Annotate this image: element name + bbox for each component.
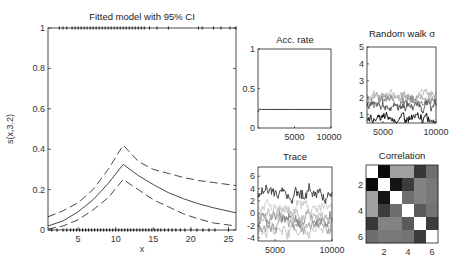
heatmap-cell — [378, 165, 390, 178]
correlation-panel: Correlation 246246 — [358, 150, 438, 257]
fitted-model-title: Fitted model with 95% CI — [89, 11, 195, 22]
heatmap-cell — [414, 165, 426, 178]
heatmap-cell — [402, 204, 414, 217]
y-tick-label: 0.2 — [32, 185, 45, 195]
heatmap-cell — [378, 204, 390, 217]
heatmap-cell — [414, 191, 426, 204]
y-tick-label: 3 — [359, 76, 364, 86]
heatmap-cell — [390, 165, 402, 178]
heatmap-cell — [390, 204, 402, 217]
acc-rate-axes — [258, 49, 331, 128]
correlation-heatmap — [366, 165, 438, 243]
y-tick-label: 0 — [40, 225, 45, 235]
acc-rate-ticks: 50001000000.51 — [242, 44, 341, 142]
y-tick-label: 6 — [358, 232, 363, 242]
heatmap-cell — [414, 217, 426, 230]
heatmap-cell — [366, 178, 378, 191]
heatmap-cell — [390, 230, 402, 243]
y-tick-label: 0 — [250, 123, 255, 133]
acc-rate-panel: Acc. rate 50001000000.51 — [242, 34, 341, 142]
heatmap-cell — [426, 191, 438, 204]
x-tick-label: 5000 — [373, 127, 393, 137]
y-tick-label: -2 — [247, 221, 255, 231]
x-tick-label: 5000 — [284, 132, 304, 142]
random-walk-sigma-axes — [367, 47, 436, 123]
x-tick-label: 5000 — [265, 245, 285, 255]
heatmap-cell — [426, 204, 438, 217]
trace-lines — [258, 183, 332, 239]
random-walk-sigma-title: Random walk σ — [369, 28, 435, 39]
heatmap-cell — [366, 165, 378, 178]
heatmap-cell — [390, 217, 402, 230]
heatmap-cell — [402, 217, 414, 230]
heatmap-cell — [414, 204, 426, 217]
y-tick-label: 0 — [250, 208, 255, 218]
heatmap-cell — [366, 230, 378, 243]
heatmap-cell — [414, 178, 426, 191]
chain-line — [258, 183, 332, 203]
y-tick-label: 2 — [358, 180, 363, 190]
heatmap-cell — [378, 191, 390, 204]
heatmap-cell — [402, 165, 414, 178]
y-tick-label: 0.6 — [32, 104, 45, 114]
y-tick-label: -4 — [247, 233, 255, 243]
chain-line — [367, 112, 436, 123]
x-tick-label: 6 — [429, 247, 434, 257]
acc-rate-line — [258, 109, 331, 112]
heatmap-cell — [378, 217, 390, 230]
trace-panel: Trace 500010000-4-20246 — [247, 151, 345, 255]
heatmap-cell — [402, 191, 414, 204]
y-tick-label: 0.4 — [32, 144, 45, 154]
y-tick-label: 0.8 — [32, 63, 45, 73]
y-tick-label: 2 — [359, 93, 364, 103]
fitted-model-panel: Fitted model with 95% CI s(x,3.2) x 5101… — [5, 11, 236, 254]
fitted-model-lines — [48, 145, 236, 229]
x-tick-label: 20 — [186, 234, 196, 244]
fitted-model-xlabel: x — [140, 244, 145, 254]
y-tick-label: 4 — [359, 59, 364, 69]
heatmap-cell — [426, 217, 438, 230]
heatmap-cell — [366, 217, 378, 230]
y-tick-label: 1 — [250, 44, 255, 54]
heatmap-cell — [390, 191, 402, 204]
y-tick-label: 5 — [359, 42, 364, 52]
x-tick-label: 5 — [76, 234, 81, 244]
heatmap-cell — [426, 178, 438, 191]
heatmap-cell — [378, 230, 390, 243]
heatmap-cell — [402, 178, 414, 191]
random-walk-sigma-lines — [367, 89, 436, 123]
y-tick-label: 4 — [358, 206, 363, 216]
y-tick-label: 2 — [250, 196, 255, 206]
x-tick-label: 2 — [381, 247, 386, 257]
y-tick-label: 1 — [359, 110, 364, 120]
figure: Fitted model with 95% CI s(x,3.2) x 5101… — [0, 0, 465, 270]
y-tick-label: 1 — [40, 23, 45, 33]
trace-title: Trace — [283, 151, 307, 162]
acc-rate-title: Acc. rate — [276, 34, 314, 45]
y-tick-label: 6 — [250, 171, 255, 181]
x-tick-label: 15 — [148, 234, 158, 244]
acc-rate-line — [258, 109, 331, 112]
x-tick-label: 10000 — [319, 245, 344, 255]
heatmap-cell — [426, 230, 438, 243]
correlation-title: Correlation — [379, 150, 425, 161]
heatmap-cell — [378, 178, 390, 191]
y-tick-label: 0.5 — [242, 84, 255, 94]
heatmap-cell — [414, 230, 426, 243]
fit-line — [48, 164, 236, 226]
heatmap-cell — [426, 165, 438, 178]
x-tick-label: 25 — [223, 234, 233, 244]
heatmap-cell — [402, 230, 414, 243]
y-tick-label: 4 — [250, 184, 255, 194]
random-walk-sigma-panel: Random walk σ 50001000012345 — [359, 28, 449, 137]
heatmap-cell — [366, 191, 378, 204]
x-tick-label: 10000 — [316, 132, 341, 142]
heatmap-cell — [366, 204, 378, 217]
x-tick-label: 10 — [111, 234, 121, 244]
fitted-model-rug — [52, 27, 236, 232]
x-tick-label: 10000 — [423, 127, 448, 137]
x-tick-label: 4 — [405, 247, 410, 257]
heatmap-cell — [390, 178, 402, 191]
fitted-model-axes — [48, 28, 236, 230]
fitted-model-ylabel: s(x,3.2) — [5, 114, 15, 144]
